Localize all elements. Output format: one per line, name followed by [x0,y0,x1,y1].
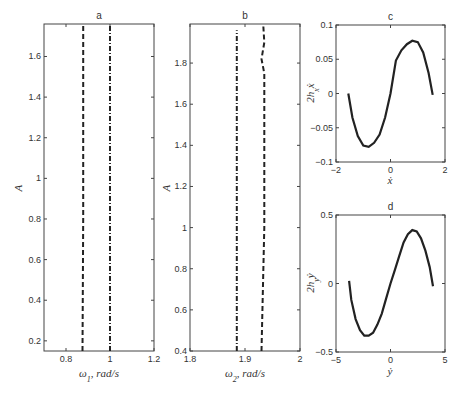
series-dashed [262,24,265,351]
svg-text:ω2, rad/s: ω2, rad/s [225,367,265,384]
axes-frame [190,24,300,351]
y-tick-label: 0.1 [320,20,333,30]
axes-frame [44,24,154,351]
panel-title: c [388,11,393,22]
y-tick-label: 0.8 [28,214,41,224]
x-tick-label: 2 [297,354,302,364]
svg-text:ω1, rad/s: ω1, rad/s [79,367,119,384]
y-tick-label: −0.5 [315,347,333,357]
y-tick-label: 0 [328,279,333,289]
x-tick-label: 5 [442,355,447,365]
y-tick-label: 0.6 [174,305,187,315]
figure: a0.811.20.20.40.60.811.21.41.6b1.81.920.… [0,0,463,393]
y-tick-label: 1 [36,173,41,183]
y-tick-label: 1 [182,223,187,233]
y-tick-label: 0.2 [28,336,41,346]
y-tick-label: −0.05 [310,123,333,133]
y-tick-label: 0.8 [174,264,187,274]
y-tick-label: 1.8 [174,58,187,68]
x-tick-label: 2 [442,165,447,175]
y-tick-label: 0.6 [28,255,41,265]
y-tick-label: 1.6 [28,51,41,61]
y-tick-label: 1.2 [174,181,187,191]
y-tick-label: 1.4 [28,92,41,102]
panel-title: d [388,201,394,212]
panel-b: b1.81.920.40.60.811.21.41.61.8 [174,10,302,364]
x-tick-label: 0.8 [60,354,73,364]
panel-c: c−202−0.1−0.0500.050.1 [310,11,447,175]
x-tick-label: 1.2 [148,354,161,364]
y-tick-label: 0.05 [315,54,333,64]
y-tick-label: 0.5 [320,210,333,220]
panel-title: b [242,10,248,21]
y-tick-label: 0 [328,89,333,99]
axis-labels: ω1, rad/sω2, rad/sAAẋẏ2hxẋ2hyẏ [12,83,393,383]
y-tick-label: 0.4 [28,295,41,305]
y-tick-label: −0.1 [315,157,333,167]
panel-title: a [96,10,102,21]
series-dashed [83,24,84,351]
xlabel-c: ẋ [387,174,393,186]
y-tick-label: 0.4 [174,346,187,356]
ylabel-b: A [160,184,172,192]
xlabel-d: ẏ [387,365,393,377]
series-curve [349,230,433,336]
panel-d: d−505−0.500.5 [315,201,447,365]
x-tick-label: 0 [388,355,393,365]
series-curve [348,41,432,147]
x-tick-label: 1 [107,354,112,364]
ylabel-a: A [12,184,24,192]
x-tick-label: 1.9 [239,354,252,364]
svg-text:2hxẋ: 2hxẋ [304,83,321,103]
y-tick-label: 1.6 [174,99,187,109]
y-tick-label: 1.2 [28,133,41,143]
panel-a: a0.811.20.20.40.60.811.21.41.6 [28,10,160,364]
svg-text:2hyẏ: 2hyẏ [304,273,321,293]
y-tick-label: 1.4 [174,140,187,150]
